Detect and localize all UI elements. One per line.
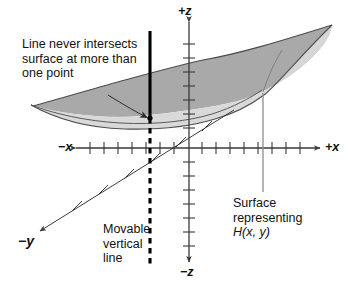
annotation-line-never-intersects: Line never intersects surface at more th… (22, 37, 182, 81)
annotation-movable-vertical-line: Movable vertical line (103, 222, 165, 266)
surface-note-line2: representing (233, 211, 303, 225)
axis-label-negative-y: −y (18, 233, 34, 249)
z-axis (183, 22, 195, 262)
annotation-surface-representing: SurfacerepresentingH(x, y) (233, 196, 338, 240)
x-axis (76, 142, 320, 154)
intersection-point-marker (147, 115, 152, 120)
surface-note-function: H(x, y) (233, 225, 270, 239)
surface-note-line1: Surface (233, 196, 276, 210)
figure-canvas: Line never intersects surface at more th… (0, 0, 348, 287)
axis-label-positive-z: +z (178, 4, 192, 18)
axis-label-positive-x: +x (325, 140, 339, 154)
axis-label-negative-x: −x (58, 140, 72, 154)
axis-label-negative-z: −z (180, 265, 194, 279)
